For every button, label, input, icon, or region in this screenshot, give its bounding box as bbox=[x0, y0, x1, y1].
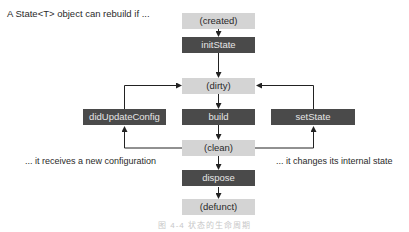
node-clean: (clean) bbox=[182, 140, 255, 156]
node-set-state: setState bbox=[271, 109, 355, 125]
node-dirty: (dirty) bbox=[182, 78, 255, 94]
note-internal-state: ... it changes its internal state bbox=[276, 156, 393, 166]
node-build: build bbox=[182, 109, 255, 125]
node-dispose: dispose bbox=[182, 170, 255, 186]
node-defunct: (defunct) bbox=[182, 199, 255, 215]
figure-caption: 图 4-4 状态的生命周期 bbox=[0, 219, 409, 230]
node-did-update-config: didUpdateConfig bbox=[83, 109, 166, 125]
note-new-configuration: ... it receives a new configuration bbox=[25, 156, 156, 166]
node-init-state: initState bbox=[182, 37, 255, 53]
node-created: (created) bbox=[182, 13, 255, 29]
